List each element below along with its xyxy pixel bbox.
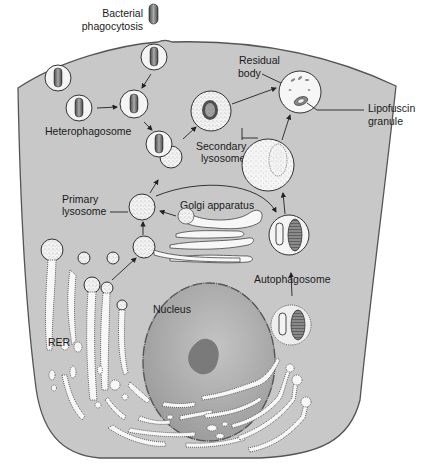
label-nucleus: Nucleus <box>153 303 191 315</box>
label-primary-lysosome-2: lysosome <box>62 205 107 217</box>
bacterium-icon <box>149 4 158 24</box>
forming-autophagosome <box>271 305 311 345</box>
label-residual-body-1: Residual <box>239 54 280 66</box>
label-rer: RER <box>48 336 71 348</box>
label-secondary-lysosome-1: Secondary <box>196 140 247 152</box>
autophagic-secondary-lysosome <box>242 139 294 191</box>
label-lipofuscin-1: Lipofuscin <box>368 102 415 114</box>
autophagosome <box>269 215 309 255</box>
label-heterophagosome: Heterophagosome <box>45 125 132 137</box>
label-primary-lysosome-1: Primary <box>62 193 99 205</box>
phagocytic-invagination <box>141 44 167 70</box>
label-lipofuscin-2: granule <box>368 115 403 127</box>
secondary-lysosome <box>191 91 231 131</box>
label-bacterial-phagocytosis-1: Bacterial <box>102 7 143 19</box>
label-bacterial-phagocytosis-2: phagocytosis <box>82 20 143 32</box>
label-autophagosome: Autophagosome <box>254 273 331 285</box>
residual-body <box>279 71 321 113</box>
label-secondary-lysosome-2: lysosome <box>201 152 246 164</box>
heterophagosome-2 <box>120 90 148 118</box>
label-golgi-apparatus: Golgi apparatus <box>180 199 254 211</box>
primary-lysosome <box>129 194 155 220</box>
label-residual-body-2: body <box>238 67 262 79</box>
heterophagosome-1 <box>66 95 92 121</box>
lysosome-diagram: Bacterial phagocytosis Heterophagosome S… <box>0 0 433 468</box>
phagocytic-invagination-left <box>45 65 71 91</box>
